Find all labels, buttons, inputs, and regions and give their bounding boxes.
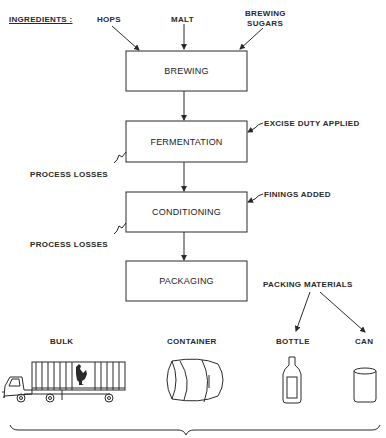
ingredient-malt: MALT xyxy=(171,15,194,24)
ingredient-brewing-sugars-line1: BREWING xyxy=(245,9,286,18)
barrel-icon xyxy=(167,359,223,402)
finings-added-annotation: FININGS ADDED xyxy=(264,190,331,199)
losses-squiggle-2 xyxy=(114,223,126,234)
bottle-icon xyxy=(283,357,301,403)
packing-materials-annotation: PACKING MATERIALS xyxy=(263,280,353,289)
step-packaging-label: PACKAGING xyxy=(126,276,247,286)
losses-squiggle-1 xyxy=(114,152,126,163)
output-bottle-label: BOTTLE xyxy=(276,337,310,346)
packing-to-bottle-arrow xyxy=(296,292,310,331)
hops-arrow xyxy=(112,26,139,50)
ingredient-brewing-sugars-line2: SUGARS xyxy=(247,19,283,28)
step-brewing-label: BREWING xyxy=(126,66,247,76)
excise-duty-annotation: EXCISE DUTY APPLIED xyxy=(264,119,360,128)
grouping-brace xyxy=(10,425,380,435)
truck-icon xyxy=(2,362,125,402)
sugars-arrow xyxy=(240,28,263,49)
output-bulk-label: BULK xyxy=(50,337,73,346)
packing-to-can-arrow xyxy=(320,292,365,332)
ingredients-label: INGREDIENTS : xyxy=(9,15,72,24)
excise-leader-arrow xyxy=(248,123,263,132)
process-losses-annotation-1: PROCESS LOSSES xyxy=(30,170,108,179)
brewing-process-diagram: INGREDIENTS : HOPS MALT BREWING SUGARS B… xyxy=(0,0,386,438)
output-can-label: CAN xyxy=(355,337,373,346)
can-icon xyxy=(354,368,376,402)
rooster-icon xyxy=(76,364,87,385)
step-fermentation-label: FERMENTATION xyxy=(126,137,247,147)
ingredient-hops: HOPS xyxy=(97,15,121,24)
output-container-label: CONTAINER xyxy=(167,337,217,346)
step-conditioning-label: CONDITIONING xyxy=(126,207,247,217)
process-losses-annotation-2: PROCESS LOSSES xyxy=(30,240,108,249)
finings-leader-arrow xyxy=(248,194,263,202)
